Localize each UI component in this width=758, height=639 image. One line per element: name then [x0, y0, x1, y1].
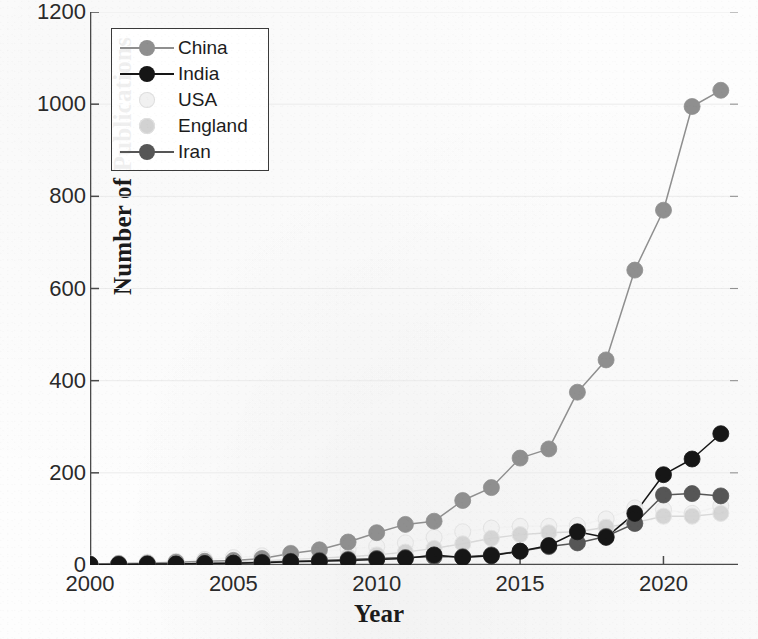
figure-canvas: Number of Publications Year 020040060080…: [0, 0, 758, 639]
legend-label: USA: [178, 89, 217, 111]
data-point: [656, 202, 672, 218]
chart-legend: ChinaIndiaUSAEnglandIran: [111, 28, 269, 171]
data-point: [512, 527, 528, 543]
data-point: [684, 451, 700, 467]
legend-dot: [139, 92, 155, 108]
data-point: [455, 493, 471, 509]
data-point: [569, 524, 585, 540]
data-point: [369, 525, 385, 541]
data-point: [598, 352, 614, 368]
data-point: [713, 426, 729, 442]
data-point: [684, 99, 700, 115]
legend-marker-england-icon: [118, 115, 176, 137]
legend-item-iran[interactable]: Iran: [112, 139, 268, 165]
data-point: [455, 550, 471, 565]
data-point: [598, 529, 614, 545]
data-point: [397, 516, 413, 532]
legend-item-china[interactable]: China: [112, 35, 268, 61]
data-point: [369, 552, 385, 566]
data-point: [713, 82, 729, 98]
x-tick-2015: 2015: [465, 573, 575, 595]
data-point: [426, 547, 442, 563]
data-point: [483, 480, 499, 496]
data-point: [713, 505, 729, 521]
data-point: [627, 505, 643, 521]
x-tick-2020: 2020: [608, 573, 718, 595]
data-point: [541, 538, 557, 554]
data-point: [656, 467, 672, 483]
data-point: [426, 513, 442, 529]
legend-dot: [139, 66, 155, 82]
data-point: [90, 557, 98, 566]
data-point: [627, 262, 643, 278]
x-tick-2010: 2010: [322, 573, 432, 595]
legend-item-india[interactable]: India: [112, 61, 268, 87]
data-point: [512, 450, 528, 466]
legend-label: Iran: [178, 141, 211, 163]
legend-dot: [139, 118, 155, 134]
legend-marker-usa-icon: [118, 89, 176, 111]
data-point: [656, 508, 672, 524]
data-point: [483, 548, 499, 564]
legend-dot: [139, 144, 155, 160]
legend-label: India: [178, 63, 219, 85]
data-point: [397, 551, 413, 566]
legend-marker-china-icon: [118, 37, 176, 59]
legend-item-england[interactable]: England: [112, 113, 268, 139]
data-point: [340, 534, 356, 550]
data-point: [541, 441, 557, 457]
data-point: [483, 530, 499, 546]
data-point: [713, 488, 729, 504]
legend-label: England: [178, 115, 248, 137]
data-point: [569, 384, 585, 400]
legend-dot: [139, 40, 155, 56]
x-tick-2005: 2005: [178, 573, 288, 595]
data-point: [684, 486, 700, 502]
legend-marker-iran-icon: [118, 141, 176, 163]
data-point: [311, 553, 327, 565]
legend-label: China: [178, 37, 228, 59]
data-point: [340, 552, 356, 565]
x-tick-2000: 2000: [35, 573, 145, 595]
legend-item-usa[interactable]: USA: [112, 87, 268, 113]
data-point: [684, 508, 700, 524]
legend-marker-india-icon: [118, 63, 176, 85]
data-point: [656, 487, 672, 503]
data-point: [512, 543, 528, 559]
